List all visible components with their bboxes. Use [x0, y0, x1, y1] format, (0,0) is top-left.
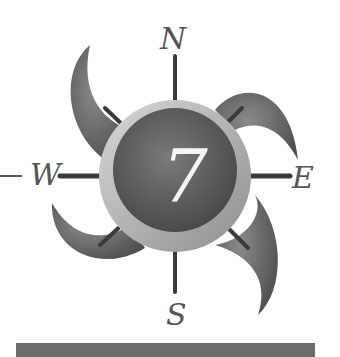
south-label: S	[166, 300, 187, 330]
east-label: E	[292, 163, 314, 193]
west-dash	[0, 175, 22, 177]
compass-number: 7	[139, 140, 231, 212]
north-label: N	[160, 24, 186, 54]
west-label: W	[30, 160, 61, 190]
bottom-gray-bar	[16, 343, 315, 357]
